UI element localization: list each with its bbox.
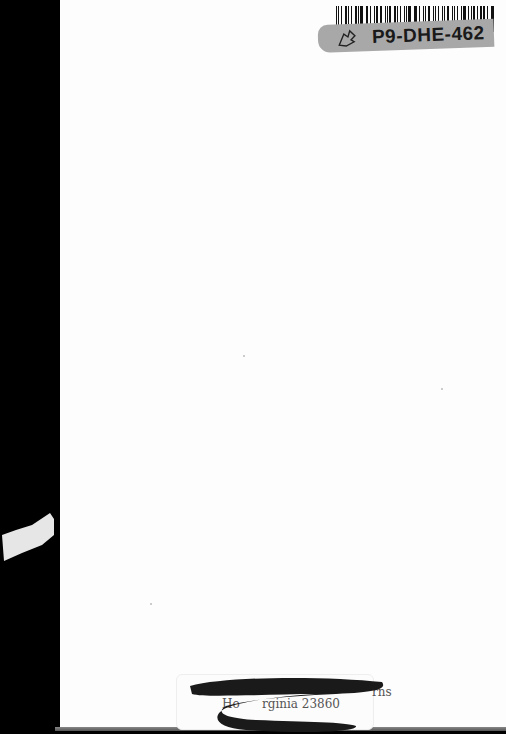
- scanner-shadow-left: [0, 0, 60, 731]
- paper-speck: [441, 388, 443, 390]
- paper-speck: [150, 603, 152, 605]
- barcode-id: P9-DHE-462: [372, 22, 485, 48]
- paper-speck: [243, 355, 245, 357]
- leaf-outline-icon: [336, 28, 359, 49]
- marker-redaction: [186, 672, 396, 734]
- torn-paper-scrap: [2, 513, 54, 561]
- document-page: [60, 0, 506, 727]
